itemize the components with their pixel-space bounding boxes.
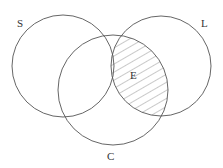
label-s: S	[17, 17, 23, 29]
venn-svg: S L C E	[0, 0, 223, 168]
label-e: E	[130, 69, 137, 81]
label-c: C	[107, 150, 114, 162]
venn-diagram: S L C E	[0, 0, 223, 168]
set-s-circle	[12, 15, 114, 117]
label-l: L	[201, 17, 208, 29]
shaded-region-e	[111, 16, 211, 116]
